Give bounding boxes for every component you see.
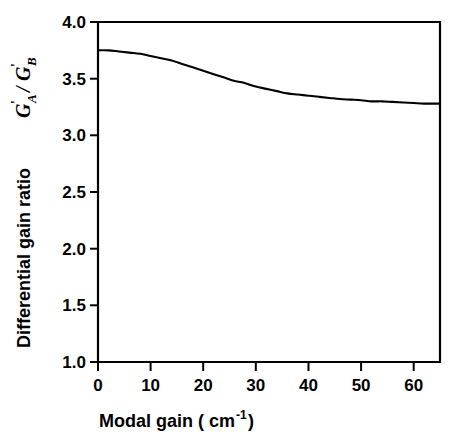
y-axis-symbol-prime-a: '	[9, 100, 24, 104]
y-axis-symbol-prime-b: '	[9, 63, 24, 67]
x-axis-title-group: Modal gain ( cm -1 )	[99, 408, 254, 431]
x-tick-label-40: 40	[299, 376, 318, 395]
y-axis-title-group: Differential gain ratio G ' A / G ' B	[9, 57, 39, 348]
x-tick-label-20: 20	[194, 376, 213, 395]
y-tick-label-3.0: 3.0	[62, 126, 86, 145]
y-tick-label-2.0: 2.0	[62, 240, 86, 259]
y-axis-symbol-subscript-a: A	[24, 94, 39, 104]
x-tick-label-30: 30	[246, 376, 265, 395]
y-axis-title-text: Differential gain ratio	[14, 168, 34, 348]
figure-container: 4.0 3.5 3.0 2.5 2.0 1.5 1.0 0 10 20 30 4…	[0, 0, 467, 446]
x-tick-label-60: 60	[404, 376, 423, 395]
y-axis-symbol-g-b: G	[12, 66, 34, 81]
y-tick-label-1.0: 1.0	[62, 353, 86, 372]
y-axis-symbol-g-a: G	[12, 103, 34, 118]
x-tick-label-0: 0	[93, 376, 102, 395]
x-axis-title-tail: )	[248, 411, 254, 431]
x-tick-label-50: 50	[352, 376, 371, 395]
x-axis-title-main: Modal gain ( cm	[99, 411, 235, 431]
data-series-group	[98, 50, 440, 103]
y-axis-symbol-slash: /	[12, 84, 34, 94]
y-tick-label-1.5: 1.5	[62, 296, 86, 315]
data-curve-differential-gain-ratio	[98, 50, 440, 103]
y-tick-label-3.5: 3.5	[62, 70, 86, 89]
x-axis-tick-labels: 0 10 20 30 40 50 60	[93, 376, 423, 395]
y-axis-tick-labels: 4.0 3.5 3.0 2.5 2.0 1.5 1.0	[62, 13, 86, 372]
y-axis-title-symbol-group: G ' A / G ' B	[9, 57, 39, 118]
plot-frame	[98, 22, 440, 362]
x-axis-ticks	[98, 362, 414, 371]
chart-plot: 4.0 3.5 3.0 2.5 2.0 1.5 1.0 0 10 20 30 4…	[0, 0, 467, 446]
x-tick-label-10: 10	[141, 376, 160, 395]
x-axis-title-superscript: -1	[236, 408, 247, 422]
y-tick-label-2.5: 2.5	[62, 183, 86, 202]
y-tick-label-4.0: 4.0	[62, 13, 86, 32]
axes-frame-path	[98, 22, 440, 362]
y-axis-ticks	[90, 22, 98, 362]
y-axis-symbol-subscript-b: B	[24, 57, 39, 67]
